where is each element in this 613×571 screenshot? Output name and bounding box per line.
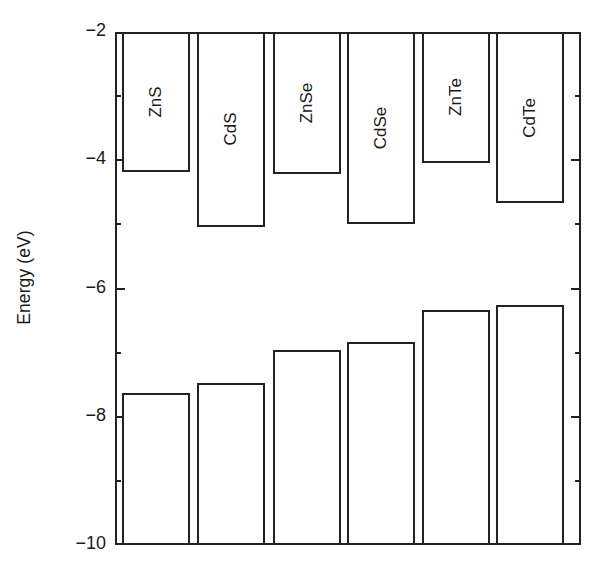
valence-band-box xyxy=(496,305,564,545)
y-tick-label: −4 xyxy=(60,149,106,167)
y-minor-tick xyxy=(575,223,581,225)
y-tick-label: −10 xyxy=(60,534,106,552)
y-axis-tick-labels: −2−4−6−8−10 xyxy=(44,0,106,571)
valence-band-box xyxy=(273,350,341,545)
y-major-tick xyxy=(115,288,125,290)
material-label: ZnSe xyxy=(297,43,317,163)
y-major-tick xyxy=(571,416,581,418)
material-label: CdSe xyxy=(371,68,391,188)
valence-band-box xyxy=(122,393,190,545)
y-major-tick xyxy=(571,159,581,161)
y-minor-tick xyxy=(115,352,121,354)
y-axis-title-container: Energy (eV) xyxy=(0,0,40,571)
y-tick-label: −2 xyxy=(60,21,106,39)
valence-band-box xyxy=(347,342,415,545)
material-label: CdS xyxy=(221,69,241,189)
y-tick-label: −8 xyxy=(60,406,106,424)
y-axis-title: Energy (eV) xyxy=(14,158,35,398)
y-minor-tick xyxy=(115,223,121,225)
valence-band-box xyxy=(197,383,265,545)
y-minor-tick xyxy=(115,480,121,482)
y-minor-tick xyxy=(575,95,581,97)
y-minor-tick xyxy=(575,352,581,354)
plot-area: ZnSCdSZnSeCdSeZnTeCdTe xyxy=(115,32,581,545)
y-tick-label: −6 xyxy=(60,278,106,296)
y-minor-tick xyxy=(575,480,581,482)
material-label: ZnTe xyxy=(446,37,466,157)
band-alignment-figure: Energy (eV) −2−4−6−8−10 ZnSCdSZnSeCdSeZn… xyxy=(0,0,613,571)
y-major-tick xyxy=(571,288,581,290)
valence-band-box xyxy=(422,310,490,545)
y-minor-tick xyxy=(115,95,121,97)
material-label: ZnS xyxy=(146,42,166,162)
material-label: CdTe xyxy=(520,58,540,178)
